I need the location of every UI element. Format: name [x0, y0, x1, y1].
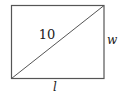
- diagonal-label: 10: [39, 27, 56, 42]
- rectangle-diagram: 10 w l: [0, 0, 121, 94]
- length-label: l: [53, 80, 57, 94]
- diagonal-line: [12, 6, 105, 79]
- width-label: w: [107, 33, 118, 47]
